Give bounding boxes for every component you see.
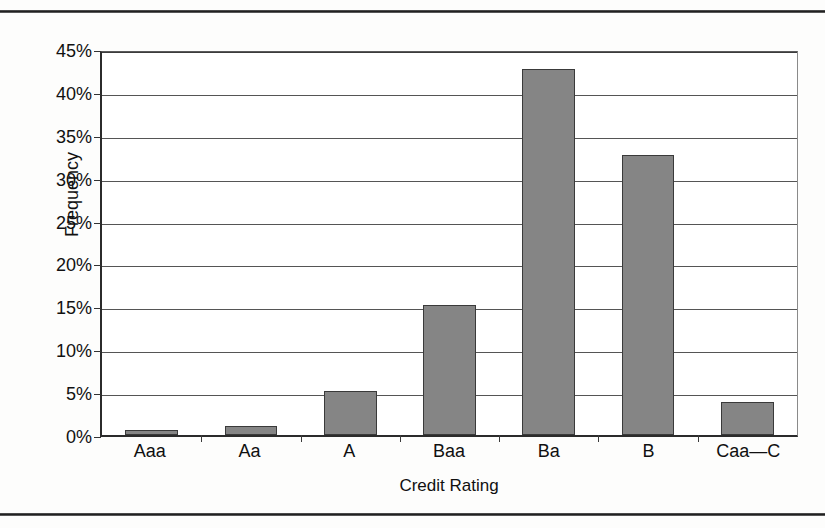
y-tick-label: 40%	[30, 83, 92, 104]
x-tick-label: A	[299, 441, 399, 462]
y-tick-label: 25%	[30, 212, 92, 233]
bar-slot	[499, 52, 598, 435]
y-tick-mark	[94, 351, 101, 352]
y-tick-mark	[94, 437, 101, 438]
x-tick-label: Aaa	[100, 441, 200, 462]
y-tick-mark	[94, 180, 101, 181]
x-tick-label: B	[599, 441, 699, 462]
bar-slot	[301, 52, 400, 435]
bar	[423, 305, 476, 435]
y-axis-tick-labels: 0%5%10%15%20%25%30%35%40%45%	[30, 16, 92, 510]
bar-series	[102, 52, 797, 435]
y-tick-label: 20%	[30, 255, 92, 276]
bar-chart: Frequency 0%5%10%15%20%25%30%35%40%45% A…	[0, 16, 825, 510]
y-tick-label: 5%	[30, 384, 92, 405]
y-tick-mark	[94, 265, 101, 266]
bar	[622, 155, 675, 435]
x-tick-label: Caa—C	[698, 441, 798, 462]
bar-slot	[698, 52, 797, 435]
bar	[324, 391, 377, 435]
y-tick-mark	[94, 308, 101, 309]
bar-slot	[102, 52, 201, 435]
bar	[721, 402, 774, 435]
y-tick-label: 10%	[30, 341, 92, 362]
y-tick-mark	[94, 394, 101, 395]
x-axis-tick-labels: AaaAaABaaBaBCaa—C	[100, 441, 798, 462]
y-tick-mark	[94, 137, 101, 138]
x-tick-label: Ba	[499, 441, 599, 462]
bar	[225, 426, 278, 435]
plot-area	[100, 51, 798, 437]
y-tick-label: 35%	[30, 126, 92, 147]
page-rule-top	[0, 10, 825, 13]
bar	[125, 430, 178, 435]
x-tick-label: Baa	[399, 441, 499, 462]
y-tick-label: 30%	[30, 169, 92, 190]
y-tick-mark	[94, 223, 101, 224]
y-tick-label: 0%	[30, 427, 92, 448]
bar-slot	[400, 52, 499, 435]
y-tick-mark	[94, 51, 101, 52]
x-axis-title: Credit Rating	[100, 476, 798, 496]
y-tick-label: 15%	[30, 298, 92, 319]
page-rule-bottom	[0, 513, 825, 516]
bar-slot	[201, 52, 300, 435]
x-tick-label: Aa	[200, 441, 300, 462]
bar	[522, 69, 575, 435]
y-tick-mark	[94, 94, 101, 95]
bar-slot	[598, 52, 697, 435]
y-tick-label: 45%	[30, 41, 92, 62]
scanned-page: Frequency 0%5%10%15%20%25%30%35%40%45% A…	[0, 0, 825, 528]
